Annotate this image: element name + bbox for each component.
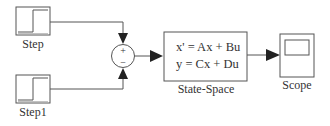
step1-block[interactable] (16, 75, 50, 103)
signal-step1-to-sum[interactable] (50, 76, 123, 89)
scope-label: Scope (282, 78, 311, 93)
state-space-label: State-Space (178, 82, 235, 97)
scope-block[interactable] (280, 34, 314, 77)
step1-label: Step1 (19, 105, 46, 120)
simulink-diagram: + − Step Step1 x' = Ax + Bu y = Cx + Du … (0, 0, 330, 126)
signal-step-to-sum[interactable] (50, 22, 123, 36)
step-label: Step (22, 37, 43, 52)
sum-plus-sign: + (120, 45, 126, 56)
step-block[interactable] (16, 7, 50, 35)
state-equation: x' = Ax + Bu (176, 40, 240, 55)
output-equation: y = Cx + Du (176, 57, 239, 72)
arrow-head-icon (118, 68, 128, 79)
sum-minus-sign: − (120, 57, 126, 68)
arrow-head-icon (118, 33, 128, 44)
arrow-head-icon (150, 50, 163, 62)
arrow-head-icon (266, 49, 280, 61)
diagram-lines (0, 0, 330, 126)
